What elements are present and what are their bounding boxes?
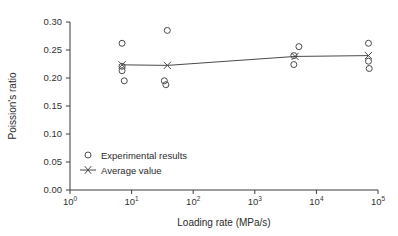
legend-label-experimental: Experimental results xyxy=(101,150,187,161)
y-tick-label-6: 0.30 xyxy=(44,16,63,27)
y-axis-title: Poission's ratio xyxy=(7,72,18,139)
legend-label-average: Average value xyxy=(101,165,162,176)
x-axis-title: Loading rate (MPa/s) xyxy=(177,217,270,228)
poissons-ratio-vs-loading-rate-chart: 0.000.050.100.150.200.250.30 10010110210… xyxy=(0,0,398,236)
y-tick-label-2: 0.10 xyxy=(44,128,63,139)
y-tick-label-1: 0.05 xyxy=(44,156,63,167)
y-tick-label-5: 0.25 xyxy=(44,44,63,55)
y-tick-label-3: 0.15 xyxy=(44,100,63,111)
y-tick-label-0: 0.00 xyxy=(44,184,63,195)
chart-canvas: 0.000.050.100.150.200.250.30 10010110210… xyxy=(0,0,398,236)
y-tick-label-4: 0.20 xyxy=(44,72,63,83)
